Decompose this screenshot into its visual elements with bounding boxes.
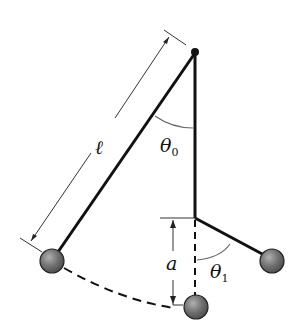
pendulum-diagram: ℓ θ0 θ1 a <box>0 0 306 336</box>
bob-right <box>260 249 284 273</box>
height-label: a <box>166 254 177 273</box>
theta0-label: θ0 <box>160 136 178 158</box>
dashed-arc-path <box>64 268 174 308</box>
theta1-symbol: θ <box>210 260 221 282</box>
theta0-subscript: 0 <box>171 146 178 159</box>
lower-rod-swing <box>195 218 266 256</box>
diagram-canvas <box>0 0 306 336</box>
theta0-arc <box>155 116 193 128</box>
bob-left <box>40 249 64 273</box>
bob-bottom <box>184 295 208 319</box>
theta1-subscript: 1 <box>221 272 228 285</box>
length-label: ℓ <box>95 138 103 157</box>
theta0-symbol: θ <box>160 134 171 156</box>
pivot-point <box>191 48 199 56</box>
theta1-label: θ1 <box>210 262 228 284</box>
theta1-arc <box>197 244 230 260</box>
